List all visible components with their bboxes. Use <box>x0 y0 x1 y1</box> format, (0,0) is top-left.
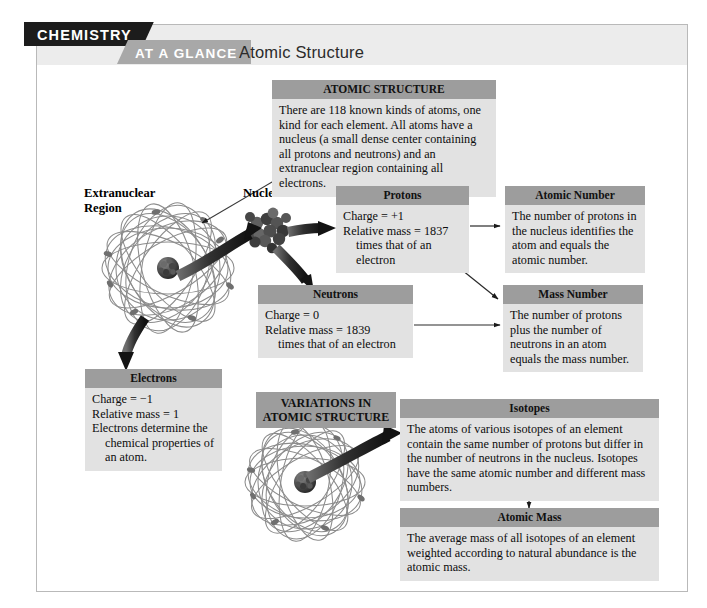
card-protons-title: Protons <box>336 186 469 205</box>
card-atomic-number-title: Atomic Number <box>505 186 645 205</box>
neutrons-charge: Charge = 0 <box>265 308 406 323</box>
neutrons-relative-mass-cont: times that of an electron <box>265 337 406 352</box>
electrons-relative-mass: Relative mass = 1 <box>92 407 215 422</box>
protons-charge: Charge = +1 <box>343 209 462 224</box>
card-mass-number-title: Mass Number <box>503 285 643 304</box>
electrons-properties-1: Electrons determine the <box>92 421 215 436</box>
card-atomic-mass-title: Atomic Mass <box>400 508 659 527</box>
electrons-properties-2: chemical properties of <box>92 436 215 451</box>
protons-relative-mass: Relative mass = 1837 <box>343 224 462 239</box>
page-root: CHEMISTRY AT A GLANCE Atomic Structure <box>0 0 707 608</box>
electrons-properties-3: an atom. <box>92 450 215 465</box>
card-mass-number-body: The number of protons plus the number of… <box>503 304 643 372</box>
card-atomic-mass: Atomic Mass The average mass of all isot… <box>400 508 659 581</box>
extranuclear-region-line2: Region <box>84 201 122 215</box>
page-title: Atomic Structure <box>239 40 364 64</box>
at-a-glance-banner: AT A GLANCE <box>117 40 251 64</box>
card-isotopes-body: The atoms of various isotopes of an elem… <box>400 418 659 501</box>
card-mass-number: Mass Number The number of protons plus t… <box>503 285 643 372</box>
card-isotopes: Isotopes The atoms of various isotopes o… <box>400 399 659 501</box>
card-electrons-title: Electrons <box>85 369 222 388</box>
card-atomic-structure-title: ATOMIC STRUCTURE <box>272 80 496 99</box>
card-atomic-structure-body: There are 118 known kinds of atoms, one … <box>272 99 496 197</box>
card-atomic-number-body: The number of protons in the nucleus ide… <box>505 205 645 273</box>
card-atomic-structure: ATOMIC STRUCTURE There are 118 known kin… <box>272 80 496 197</box>
card-electrons: Electrons Charge = −1 Relative mass = 1 … <box>85 369 222 471</box>
card-neutrons-body: Charge = 0 Relative mass = 1839 times th… <box>258 304 413 358</box>
extranuclear-region-line1: Extranuclear <box>84 186 155 200</box>
card-neutrons-title: Neutrons <box>258 285 413 304</box>
variations-line1: VARIATIONS IN <box>281 396 372 410</box>
card-protons-body: Charge = +1 Relative mass = 1837 times t… <box>336 205 469 273</box>
card-atomic-mass-body: The average mass of all isotopes of an e… <box>400 527 659 581</box>
electrons-charge: Charge = −1 <box>92 392 215 407</box>
protons-relative-mass-cont: times that of an electron <box>343 238 462 267</box>
variations-line2: ATOMIC STRUCTURE <box>263 410 390 424</box>
label-variations-in-atomic-structure: VARIATIONS IN ATOMIC STRUCTURE <box>256 392 396 428</box>
card-atomic-number: Atomic Number The number of protons in t… <box>505 186 645 273</box>
card-neutrons: Neutrons Charge = 0 Relative mass = 1839… <box>258 285 413 358</box>
extranuclear-region-label: Extranuclear Region <box>84 186 155 215</box>
card-electrons-body: Charge = −1 Relative mass = 1 Electrons … <box>85 388 222 471</box>
card-isotopes-title: Isotopes <box>400 399 659 418</box>
card-protons: Protons Charge = +1 Relative mass = 1837… <box>336 186 469 273</box>
neutrons-relative-mass: Relative mass = 1839 <box>265 323 406 338</box>
